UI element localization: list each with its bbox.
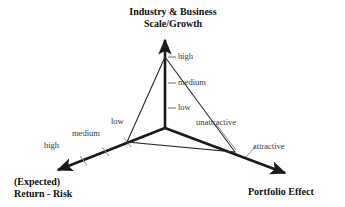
tick-label-right-unattractive: unattractive bbox=[196, 117, 236, 127]
tick-label-left-high: high bbox=[44, 140, 59, 150]
axis-title-right: Portfolio Effect bbox=[248, 186, 342, 198]
axis-title-left: (Expected) Return - Risk bbox=[14, 176, 118, 200]
axis-title-vertical: Industry & Business Scale/Growth bbox=[110, 6, 236, 30]
tick-label-left-low: low bbox=[111, 116, 124, 126]
tick-label-left-medium: medium bbox=[72, 128, 100, 138]
axis-title-left-line2: Return - Risk bbox=[14, 188, 72, 199]
axis-title-vertical-line2: Scale/Growth bbox=[144, 18, 202, 29]
tick-label-right-attractive: attractive bbox=[253, 141, 285, 151]
radar-diagram: Industry & Business Scale/Growth (Expect… bbox=[0, 0, 345, 207]
tick-label-vertical-high: high bbox=[178, 51, 193, 61]
tick-label-vertical-medium: medium bbox=[178, 77, 206, 87]
tick-mark-right-unattractive bbox=[216, 124, 236, 150]
axis-title-right-line1: Portfolio Effect bbox=[248, 186, 314, 197]
axis-title-vertical-line1: Industry & Business bbox=[129, 6, 216, 17]
axis-title-left-line1: (Expected) bbox=[14, 176, 60, 187]
tick-label-vertical-low: low bbox=[178, 102, 191, 112]
